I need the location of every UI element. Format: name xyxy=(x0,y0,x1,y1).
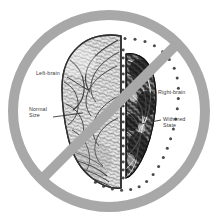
brain-prohibition-illustration xyxy=(0,0,224,224)
figure-canvas: Left-brain Normal Size Right-brain Withe… xyxy=(0,0,224,224)
